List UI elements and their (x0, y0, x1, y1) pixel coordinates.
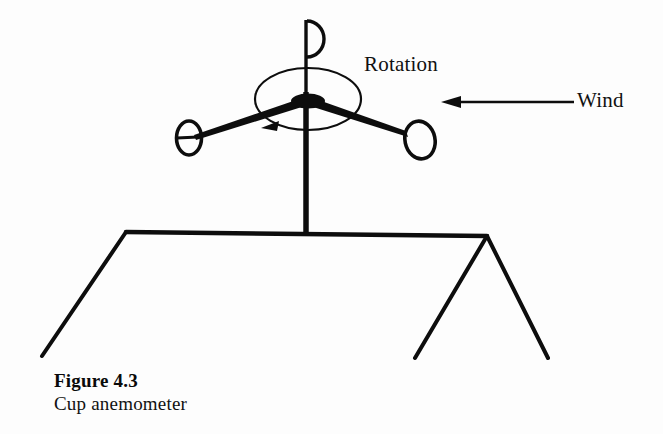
figure-caption-title: Figure 4.3 (54, 369, 474, 392)
figure-caption-subtitle: Cup anemometer (54, 392, 474, 415)
top-arm-group (306, 20, 324, 101)
rotation-label: Rotation (364, 54, 438, 75)
roof-gable-left (415, 236, 487, 358)
right-arm (310, 97, 408, 137)
figure-container: Rotation Wind Figure 4.3 Cup anemometer (0, 0, 663, 434)
left-arm-group (177, 97, 306, 155)
wind-arrow-group (441, 96, 574, 108)
roof-gable-right (487, 236, 548, 358)
roof-group (42, 232, 548, 358)
right-arm-group (310, 97, 439, 162)
figure-caption: Figure 4.3 Cup anemometer (54, 369, 474, 415)
right-cup (401, 118, 438, 161)
left-arm (194, 97, 305, 140)
rotation-arrowhead-icon (261, 121, 279, 131)
top-cup (307, 21, 324, 57)
anemometer-hub (291, 94, 325, 109)
wind-label: Wind (577, 90, 624, 111)
wind-arrowhead-icon (441, 96, 461, 108)
left-cup-stub (177, 137, 198, 138)
roof-left-slope (42, 232, 126, 356)
